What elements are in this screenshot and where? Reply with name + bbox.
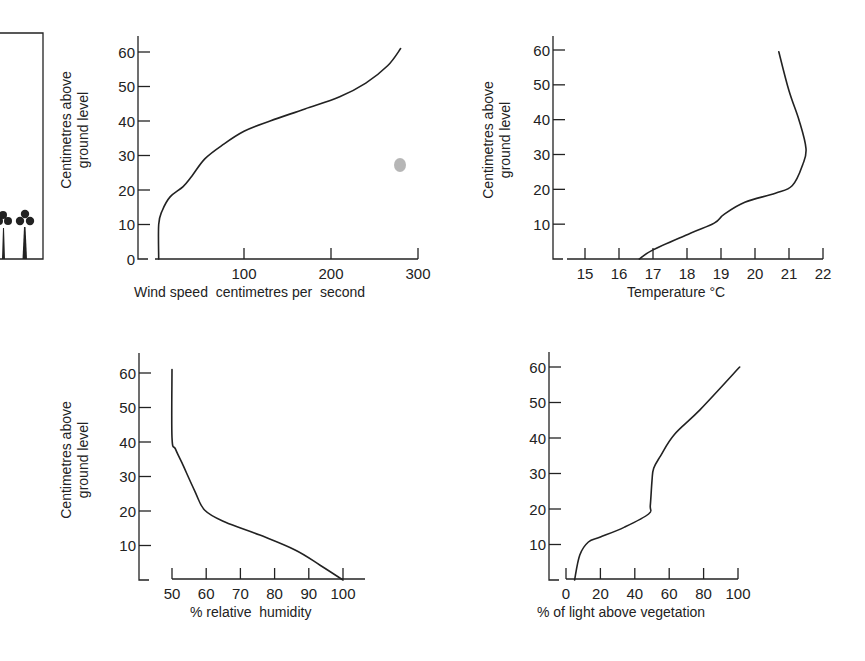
- y-tick-label: 60: [118, 44, 135, 61]
- x-tick-label: 70: [232, 585, 249, 602]
- y-tick-label: 10: [119, 537, 136, 554]
- x-tick-label: 17: [645, 265, 662, 282]
- y-tick-label: 20: [533, 181, 550, 198]
- y-tick-label: 40: [529, 430, 546, 447]
- y-tick-label: 10: [533, 216, 550, 233]
- x-axis-title: % relative humidity: [190, 604, 311, 620]
- y-axis-title-line: Centimetres above: [480, 81, 496, 199]
- y-axis-title-line: Centimetres above: [58, 71, 74, 189]
- data-curve: [158, 49, 400, 259]
- y-axis-title: Centimetres aboveground level: [480, 81, 513, 199]
- x-tick-label: 18: [679, 265, 696, 282]
- x-tick-label: 22: [815, 265, 832, 282]
- y-tick-label: 50: [118, 78, 135, 95]
- y-axis-line: [138, 36, 148, 259]
- wind-speed-chart: 0102030405060100200300Wind speed centime…: [58, 36, 431, 300]
- x-tick-label: 100: [330, 585, 355, 602]
- x-tick-label: 60: [661, 585, 678, 602]
- plant-icon: [0, 211, 12, 259]
- x-tick-label: 15: [577, 265, 594, 282]
- x-tick-label: 0: [562, 585, 570, 602]
- x-axis-title: % of light above vegetation: [537, 604, 705, 620]
- y-tick-label: 30: [118, 147, 135, 164]
- data-curve: [575, 367, 740, 580]
- y-tick-label: 30: [529, 465, 546, 482]
- y-tick-label: 40: [533, 111, 550, 128]
- y-tick-label: 10: [118, 216, 135, 233]
- y-axis-line: [553, 36, 563, 259]
- y-tick-label: 60: [119, 365, 136, 382]
- x-tick-label: 90: [300, 585, 317, 602]
- x-tick-label: 200: [318, 265, 343, 282]
- x-tick-label: 16: [611, 265, 628, 282]
- y-tick-label: 50: [119, 399, 136, 416]
- y-tick-label: 20: [118, 182, 135, 199]
- y-axis-title-line: ground level: [497, 102, 513, 178]
- y-axis-title: Centimetres aboveground level: [58, 401, 91, 519]
- x-tick-label: 19: [713, 265, 730, 282]
- x-tick-label: 20: [747, 265, 764, 282]
- figure-canvas: 0102030405060100200300Wind speed centime…: [0, 0, 865, 661]
- y-tick-label: 20: [529, 501, 546, 518]
- x-tick-label: 60: [198, 585, 215, 602]
- vegetation-illustration: [0, 33, 43, 259]
- x-axis-title: Wind speed centimetres per second: [134, 284, 365, 300]
- y-axis-title: Centimetres aboveground level: [58, 71, 91, 189]
- y-tick-label: 60: [533, 42, 550, 59]
- y-axis-title-line: ground level: [75, 422, 91, 498]
- x-axis-title: Temperature °C: [627, 284, 725, 300]
- smudge-mark: [394, 158, 406, 172]
- y-tick-label: 60: [529, 359, 546, 376]
- y-tick-label: 50: [533, 76, 550, 93]
- y-axis-title-line: ground level: [75, 92, 91, 168]
- temperature-chart: 1020304050601516171819202122Temperature …: [480, 36, 831, 300]
- x-tick-label: 40: [626, 585, 643, 602]
- plant-icon: [16, 210, 34, 259]
- y-tick-label: 30: [119, 468, 136, 485]
- x-tick-label: 300: [405, 265, 430, 282]
- y-tick-label: 30: [533, 146, 550, 163]
- y-axis-line: [549, 352, 559, 580]
- x-tick-label: 100: [725, 585, 750, 602]
- y-tick-label: 20: [119, 503, 136, 520]
- y-axis-title-line: Centimetres above: [58, 401, 74, 519]
- y-tick-label: 40: [119, 434, 136, 451]
- y-tick-label: 10: [529, 536, 546, 553]
- x-tick-label: 80: [695, 585, 712, 602]
- x-tick-label: 20: [592, 585, 609, 602]
- y-tick-label: 0: [127, 251, 135, 268]
- x-tick-label: 50: [164, 585, 181, 602]
- data-curve: [639, 52, 806, 259]
- light-chart: 102030405060020406080100% of light above…: [529, 352, 750, 620]
- humidity-chart: 1020304050605060708090100% relative humi…: [58, 353, 365, 620]
- x-tick-label: 80: [266, 585, 283, 602]
- x-tick-label: 100: [231, 265, 256, 282]
- y-tick-label: 50: [529, 394, 546, 411]
- data-curve: [172, 370, 343, 580]
- y-tick-label: 40: [118, 113, 135, 130]
- x-tick-label: 21: [781, 265, 798, 282]
